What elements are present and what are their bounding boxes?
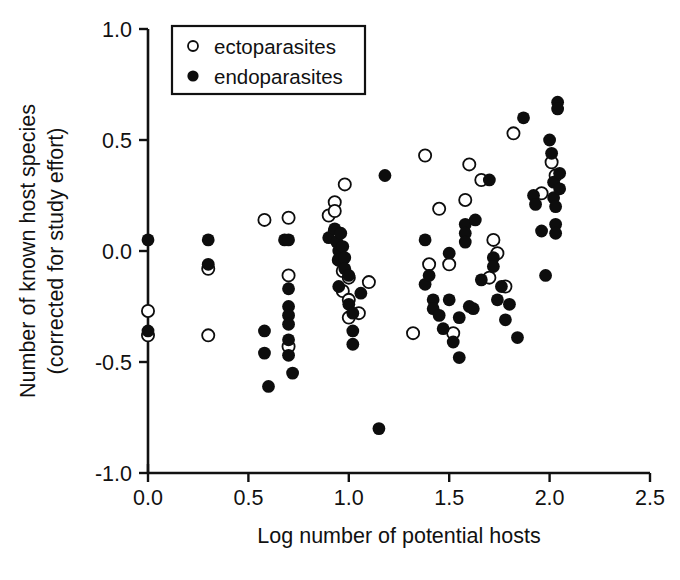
data-point-endoparasite (346, 338, 359, 351)
x-tick-label: 0.0 (133, 486, 163, 510)
data-point-endoparasite (433, 309, 446, 322)
data-point-endoparasite (487, 260, 500, 273)
data-point-endoparasite (453, 351, 466, 364)
data-point-endoparasite (282, 333, 295, 346)
scatter-plot-figure: 0.00.51.01.52.02.5 -1.0-0.50.00.51.0 ect… (0, 0, 680, 580)
legend-marker-ectoparasites (188, 41, 198, 51)
x-tick-label: 1.0 (334, 486, 364, 510)
data-point-endoparasite (142, 325, 155, 338)
data-point-endoparasite (332, 280, 345, 293)
data-point-endoparasite (346, 325, 359, 338)
data-point-endoparasite (142, 234, 155, 247)
y-tick-label: -0.5 (95, 351, 132, 375)
data-point-endoparasite (336, 240, 349, 253)
y-tick-label: 1.0 (102, 18, 132, 42)
x-tick-labels: 0.00.51.01.52.02.5 (133, 486, 665, 510)
data-point-ectoparasite (419, 149, 431, 161)
data-point-endoparasite (475, 273, 488, 286)
data-point-endoparasite (491, 293, 504, 306)
y-tick-label: -1.0 (95, 462, 132, 486)
data-point-endoparasite (282, 234, 295, 247)
data-point-ectoparasite (433, 203, 445, 215)
data-point-endoparasite (354, 287, 367, 300)
data-point-ectoparasite (282, 212, 294, 224)
data-point-endoparasite (338, 251, 351, 264)
y-tick-label: 0.5 (102, 129, 132, 153)
data-point-endoparasite (553, 167, 566, 180)
data-point-endoparasite (549, 227, 562, 240)
data-point-ectoparasite (423, 258, 435, 270)
data-point-endoparasite (511, 331, 524, 344)
data-point-endoparasite (469, 214, 482, 227)
data-point-endoparasite (517, 111, 530, 124)
data-point-endoparasite (543, 134, 556, 147)
data-point-endoparasite (483, 174, 496, 187)
data-point-endoparasite (549, 200, 562, 213)
y-axis-title-line-2: (corrected for study effort) (44, 128, 68, 375)
data-point-ectoparasite (459, 194, 471, 206)
data-point-endoparasite (545, 147, 558, 160)
data-point-ectoparasite (407, 327, 419, 339)
data-point-endoparasite (553, 182, 566, 195)
legend-label-ectoparasites: ectoparasites (214, 35, 336, 58)
data-point-endoparasite (437, 322, 450, 335)
axes (148, 29, 650, 473)
scatter-plot-canvas: 0.00.51.01.52.02.5 -1.0-0.50.00.51.0 ect… (0, 0, 680, 580)
data-point-endoparasite (282, 282, 295, 295)
data-point-ectoparasite (443, 258, 455, 270)
data-point-endoparasite (423, 269, 436, 282)
data-point-ectoparasite (463, 158, 475, 170)
data-point-endoparasite (535, 225, 548, 238)
data-point-ectoparasite (142, 305, 154, 317)
data-point-endoparasite (539, 269, 552, 282)
data-point-endoparasite (286, 367, 299, 380)
data-point-endoparasite (419, 234, 432, 247)
data-point-endoparasite (459, 236, 472, 249)
data-point-ectoparasite (507, 127, 519, 139)
data-point-endoparasite (379, 169, 392, 182)
data-point-ectoparasite (202, 329, 214, 341)
data-point-endoparasite (202, 258, 215, 271)
data-point-endoparasite (467, 302, 480, 315)
data-point-endoparasite (282, 318, 295, 331)
data-point-ectoparasite (329, 205, 341, 217)
x-tick-label: 1.5 (434, 486, 464, 510)
data-point-endoparasite (453, 311, 466, 324)
data-point-endoparasite (495, 280, 508, 293)
legend: ectoparasitesendoparasites (172, 26, 365, 94)
data-point-endoparasite (282, 349, 295, 362)
data-point-ectoparasite (363, 276, 375, 288)
data-point-endoparasite (334, 227, 347, 240)
data-point-endoparasite (447, 336, 460, 349)
data-point-endoparasite (529, 198, 542, 211)
data-point-endoparasite (346, 307, 359, 320)
y-axis-title-line-1: Number of known host species (16, 104, 40, 398)
x-tick-label: 2.0 (535, 486, 565, 510)
x-tick-label: 2.5 (635, 486, 665, 510)
y-tick-labels: -1.0-0.50.00.51.0 (95, 18, 132, 486)
legend-marker-endoparasites (187, 70, 198, 81)
data-point-ectoparasite (258, 214, 270, 226)
data-point-endoparasite (551, 103, 564, 116)
legend-label-endoparasites: endoparasites (214, 65, 343, 88)
data-point-ectoparasite (339, 178, 351, 190)
data-point-endoparasite (258, 325, 271, 338)
data-point-endoparasite (202, 234, 215, 247)
x-tick-label: 0.5 (233, 486, 263, 510)
data-point-endoparasite (443, 247, 456, 260)
data-point-endoparasite (443, 293, 456, 306)
data-point-endoparasite (342, 269, 355, 282)
data-point-endoparasite (373, 422, 386, 435)
data-point-ectoparasite (282, 269, 294, 281)
data-point-ectoparasite (487, 234, 499, 246)
data-point-endoparasite (258, 347, 271, 360)
data-point-endoparasite (262, 380, 275, 393)
data-point-endoparasite (499, 313, 512, 326)
data-point-endoparasite (503, 298, 516, 311)
y-tick-label: 0.0 (102, 240, 132, 264)
data-points (142, 96, 566, 435)
axis-ticks (139, 29, 650, 482)
x-axis-title: Log number of potential hosts (257, 524, 540, 548)
